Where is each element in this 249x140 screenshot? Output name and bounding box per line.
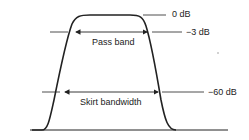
pass-band-label: Pass band [92,38,135,47]
skirt-bandwidth-label: Skirt bandwidth [80,98,142,107]
speck [217,52,219,54]
level-label-minus3db: −3 dB [186,28,210,37]
filter-response-diagram: 0 dB −3 dB −60 dB Pass band Skirt bandwi… [0,0,249,140]
level-label-0db: 0 dB [172,10,191,19]
diagram-graphics [0,0,249,140]
level-label-minus60db: −60 dB [208,88,237,97]
